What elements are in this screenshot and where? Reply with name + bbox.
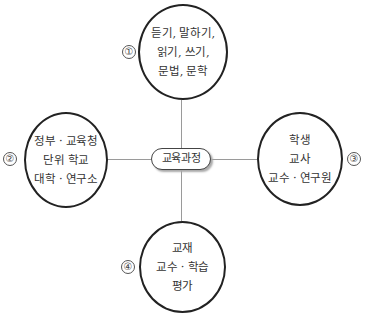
connector-left <box>107 159 151 160</box>
node-line: 읽기, 쓰기, <box>157 43 210 62</box>
connector-bottom <box>181 170 182 221</box>
node-line: 교수 · 학습 <box>156 258 209 277</box>
marker-4: ④ <box>121 260 135 274</box>
node-materials: 교재 교수 · 학습 평가 <box>139 221 226 313</box>
node-line: 듣기, 말하기, <box>151 24 215 43</box>
connector-right <box>211 159 257 160</box>
node-line: 평가 <box>172 277 193 296</box>
node-line: 교사 <box>289 150 310 169</box>
node-line: 단위 학교 <box>43 151 89 170</box>
node-content-areas: 듣기, 말하기, 읽기, 쓰기, 문법, 문학 <box>138 4 228 100</box>
node-line: 교재 <box>172 239 193 258</box>
node-line: 학생 <box>289 131 310 150</box>
center-label: 교육과정 <box>151 148 211 170</box>
marker-2: ② <box>3 152 17 166</box>
node-line: 문법, 문학 <box>158 62 208 81</box>
node-line: 대학 · 연구소 <box>34 170 98 189</box>
node-participants: 학생 교사 교수 · 연구원 <box>257 112 343 206</box>
node-line: 정부 · 교육청 <box>34 132 98 151</box>
marker-3: ③ <box>347 152 361 166</box>
node-institutions: 정부 · 교육청 단위 학교 대학 · 연구소 <box>24 112 108 208</box>
node-line: 교수 · 연구원 <box>268 169 332 188</box>
connector-top <box>181 100 182 148</box>
marker-1: ① <box>122 45 136 59</box>
